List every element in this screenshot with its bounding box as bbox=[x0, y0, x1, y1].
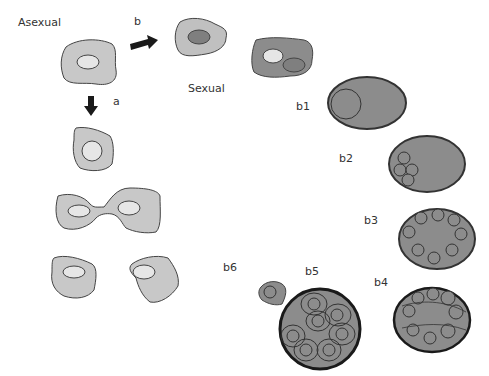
label-b: b bbox=[134, 16, 141, 27]
label-b1: b1 bbox=[296, 101, 310, 112]
cyst-b4 bbox=[394, 288, 470, 352]
rounding-cell bbox=[73, 127, 113, 170]
emerging-cell-b6 bbox=[259, 282, 286, 305]
label-a: a bbox=[113, 96, 120, 107]
start-cell bbox=[61, 40, 116, 85]
label-b4: b4 bbox=[374, 277, 388, 288]
cyst-b5 bbox=[280, 289, 360, 369]
cyst-b2 bbox=[389, 136, 465, 192]
daughter-cell-right bbox=[130, 256, 178, 302]
cyst-b1 bbox=[328, 77, 406, 129]
dividing-cell bbox=[56, 188, 160, 233]
daughter-cell-left bbox=[52, 256, 96, 298]
gamont-pair-cell bbox=[252, 38, 313, 78]
diagram-svg bbox=[0, 0, 489, 376]
arrow-b-icon bbox=[130, 35, 158, 50]
diagram-canvas: Asexual b Sexual a b1 b2 b3 b4 b5 b6 bbox=[0, 0, 489, 376]
cyst-b3 bbox=[399, 209, 475, 269]
label-b3: b3 bbox=[364, 215, 378, 226]
label-b2: b2 bbox=[339, 153, 353, 164]
gamont-cell bbox=[175, 18, 226, 55]
label-asexual: Asexual bbox=[18, 17, 61, 28]
label-b5: b5 bbox=[305, 266, 319, 277]
label-b6: b6 bbox=[223, 262, 237, 273]
label-sexual: Sexual bbox=[188, 83, 225, 94]
arrow-a-icon bbox=[84, 96, 98, 116]
